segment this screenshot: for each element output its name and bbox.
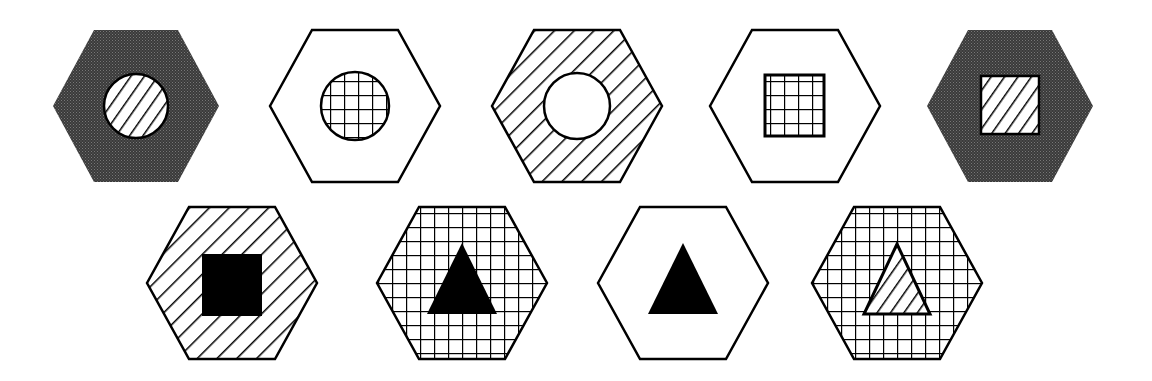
- square-shape: [202, 254, 262, 316]
- hexagon-7: [377, 207, 547, 359]
- hexagon-3: [492, 30, 662, 182]
- circle-shape: [321, 72, 389, 140]
- hexagon-figure: [0, 0, 1152, 381]
- circle-shape: [544, 73, 610, 139]
- hexagon-4: [710, 30, 880, 182]
- hexagon-5: [927, 30, 1093, 182]
- hexagon-1: [53, 30, 219, 182]
- hexagon-8: [598, 207, 768, 359]
- square-shape: [765, 75, 824, 136]
- circle-shape: [104, 74, 168, 138]
- square-shape: [981, 76, 1039, 134]
- hexagon-9: [812, 207, 982, 359]
- hexagon-6: [147, 207, 317, 359]
- hexagon-2: [270, 30, 440, 182]
